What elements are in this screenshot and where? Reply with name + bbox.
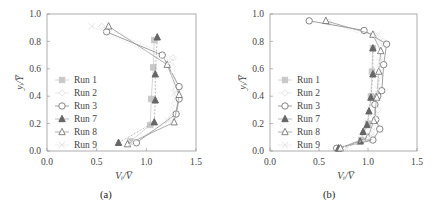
data-point bbox=[366, 108, 372, 114]
data-point bbox=[170, 55, 176, 61]
x-tick-label: 0.0 bbox=[41, 157, 53, 167]
legend-label: Run 8 bbox=[297, 127, 320, 137]
legend-marker bbox=[59, 77, 64, 82]
series-line bbox=[309, 21, 386, 148]
legend-marker bbox=[282, 103, 288, 109]
data-point bbox=[151, 65, 156, 70]
x-tick-label: 1.5 bbox=[411, 157, 423, 167]
series-run-2 bbox=[326, 19, 386, 151]
chart-panel-a: 0.00.20.40.60.81.00.00.51.01.5Vᵢ/V̅yᵢ/Y̅… bbox=[0, 0, 216, 212]
legend-marker bbox=[59, 90, 65, 96]
y-tick-label: 0.0 bbox=[29, 146, 41, 156]
legend-label: Run 3 bbox=[297, 101, 320, 111]
series-line bbox=[102, 26, 177, 142]
caption-b: (b) bbox=[323, 189, 335, 200]
series-line bbox=[326, 21, 381, 148]
chart-svg-b: 0.00.20.40.60.81.00.00.51.01.5Vᵢ/V̅yᵢ/Y̅… bbox=[216, 0, 433, 212]
x-tick-label: 0.5 bbox=[91, 157, 103, 167]
legend-label: Run 3 bbox=[74, 101, 97, 111]
legend-label: Run 1 bbox=[297, 75, 320, 85]
data-point bbox=[377, 126, 383, 132]
legend-marker bbox=[282, 115, 288, 121]
series-line bbox=[109, 26, 180, 144]
legend-marker bbox=[282, 90, 288, 96]
y-tick-label: 0.2 bbox=[29, 119, 41, 129]
legend-marker bbox=[282, 77, 287, 82]
series-run-9 bbox=[89, 23, 178, 146]
legend-label: Run 9 bbox=[297, 140, 320, 150]
x-axis-title: Vᵢ/V̅ bbox=[115, 170, 133, 181]
caption-a: (a) bbox=[100, 189, 112, 200]
x-tick-label: 1.5 bbox=[190, 157, 202, 167]
data-point bbox=[89, 23, 95, 29]
y-tick-label: 0.6 bbox=[29, 64, 41, 74]
legend-marker bbox=[59, 115, 65, 121]
y-tick-label: 0.2 bbox=[252, 119, 264, 129]
legend-label: Run 2 bbox=[297, 88, 320, 98]
legend: Run 1Run 2Run 3Run 7Run 8Run 9 bbox=[55, 75, 97, 150]
legend-marker bbox=[59, 103, 65, 109]
data-point bbox=[98, 23, 104, 29]
legend-marker bbox=[59, 128, 65, 134]
data-point bbox=[380, 61, 386, 67]
data-point bbox=[105, 23, 111, 29]
x-tick-label: 0.0 bbox=[264, 157, 276, 167]
y-tick-label: 0.8 bbox=[252, 37, 264, 47]
y-tick-label: 1.0 bbox=[29, 9, 41, 19]
legend-marker bbox=[282, 128, 288, 134]
data-point bbox=[171, 90, 177, 96]
legend-label: Run 7 bbox=[74, 114, 97, 124]
chart-panel-b: 0.00.20.40.60.81.00.00.51.01.5Vᵢ/V̅yᵢ/Y̅… bbox=[216, 0, 432, 212]
x-tick-label: 1.0 bbox=[140, 157, 152, 167]
series-run-1 bbox=[128, 37, 157, 144]
x-tick-label: 0.5 bbox=[313, 157, 325, 167]
data-point bbox=[306, 18, 312, 24]
y-tick-label: 0.4 bbox=[29, 91, 41, 101]
data-point bbox=[383, 41, 389, 47]
y-tick-label: 0.8 bbox=[29, 37, 41, 47]
series-line bbox=[92, 26, 174, 142]
y-tick-label: 0.4 bbox=[252, 91, 264, 101]
series-run-7 bbox=[335, 45, 376, 151]
legend-label: Run 2 bbox=[74, 88, 97, 98]
y-axis-title: yᵢ/Y̅ bbox=[237, 74, 248, 91]
x-tick-label: 1.0 bbox=[362, 157, 374, 167]
legend-label: Run 8 bbox=[74, 127, 97, 137]
data-point bbox=[154, 34, 160, 40]
legend-label: Run 1 bbox=[74, 75, 97, 85]
y-tick-label: 1.0 bbox=[252, 9, 264, 19]
legend-label: Run 9 bbox=[74, 140, 97, 150]
plot-frame bbox=[270, 14, 417, 151]
data-point bbox=[376, 68, 382, 74]
y-tick-label: 0.6 bbox=[252, 64, 264, 74]
data-point bbox=[115, 139, 121, 145]
series-line bbox=[329, 22, 383, 148]
legend: Run 1Run 2Run 3Run 7Run 8Run 9 bbox=[278, 75, 320, 150]
series-run-2 bbox=[98, 23, 179, 146]
legend-label: Run 7 bbox=[297, 114, 320, 124]
x-axis-title: Vᵢ/V̅ bbox=[337, 170, 355, 181]
y-tick-label: 0.0 bbox=[252, 146, 264, 156]
chart-svg-a: 0.00.20.40.60.81.00.00.51.01.5Vᵢ/V̅yᵢ/Y̅… bbox=[0, 0, 216, 212]
y-axis-title: yᵢ/Y̅ bbox=[14, 74, 25, 91]
data-point bbox=[151, 119, 157, 125]
